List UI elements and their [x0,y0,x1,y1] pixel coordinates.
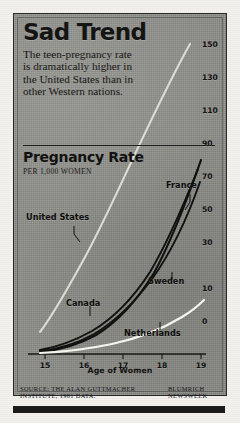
y-tick-130: 130 [202,73,222,82]
y-tick-10: 10 [202,284,222,293]
leader-united-states [74,226,80,242]
page-title: Sad Trend [23,20,173,45]
y-tick-90: 90 [202,139,222,148]
credit-artist: BLUMRICH [168,385,232,392]
x-axis-ticks [45,354,201,359]
y-tick-70: 70 [202,172,222,181]
infographic-page: Sad Trend The teen-pregnancy rate is dra… [0,0,240,423]
chart-title-line1: Pregnancy Rate [23,150,144,165]
series-label-netherlands: Netherlands [124,328,181,338]
headline-block: Sad Trend The teen-pregnancy rate is dra… [23,20,173,98]
callout-leaders [74,194,190,330]
series-label-france: France [166,180,197,190]
y-tick-110: 110 [202,106,222,115]
series-label-sweden: Sweden [148,276,184,286]
y-tick-150: 150 [202,40,222,49]
source-note: SOURCE: THE ALAN GUTTMACHER INSTITUTE, 1… [20,385,160,400]
credit-publication: NEWSWEEK [168,392,232,399]
series-line-canada [40,169,198,350]
series-line-sweden [40,182,200,351]
credit-note: BLUMRICH NEWSWEEK [168,385,232,400]
chart-units-label: PER 1,000 WOMEN [23,167,144,176]
x-axis-title: Age of Women [14,366,226,375]
deck-text: The teen-pregnancy rate is dramatically … [23,48,141,98]
y-tick-0: 0 [202,317,222,326]
divider-rule [23,145,215,146]
bottom-bar [13,406,225,413]
chart-title-block: Pregnancy Rate PER 1,000 WOMEN [23,150,144,176]
chart-panel: Sad Trend The teen-pregnancy rate is dra… [13,13,227,396]
y-tick-30: 30 [202,238,222,247]
y-tick-50: 50 [202,205,222,214]
series-label-canada: Canada [66,298,100,308]
series-label-united-states: United States [26,212,89,222]
